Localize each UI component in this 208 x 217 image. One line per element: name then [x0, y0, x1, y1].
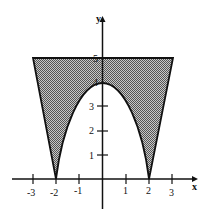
y-axis-label: y [96, 13, 101, 24]
x-tick-label: -3 [27, 187, 35, 198]
x-tick-label: -1 [74, 185, 82, 196]
y-tick-label: 3 [89, 101, 94, 112]
x-tick-label: -2 [50, 187, 58, 198]
x-tick-label: 3 [169, 187, 174, 198]
y-tick-label: 5 [93, 53, 98, 64]
x-tick-label: 2 [146, 185, 151, 196]
y-tick-label: 1 [89, 150, 94, 161]
y-tick-label: 4 [93, 77, 98, 88]
graph-figure: -3 -2 -1 1 2 3 1 2 3 4 5 x y [0, 0, 208, 217]
y-tick-label: 2 [89, 125, 94, 136]
x-tick-label: 1 [123, 185, 128, 196]
x-axis-label: x [192, 181, 197, 192]
